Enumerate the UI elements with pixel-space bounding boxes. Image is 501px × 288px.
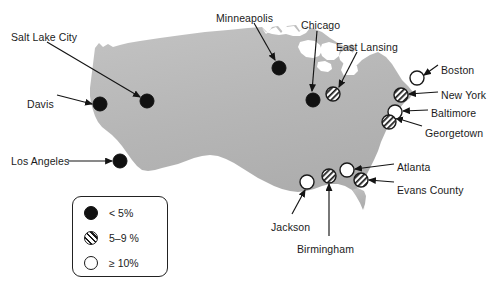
legend-row-mid: 5–9 % [73,226,167,250]
city-label-davis: Davis [27,98,54,110]
legend-symbol-open-circle [73,256,109,270]
city-marker-atlanta[interactable] [340,163,354,177]
legend-label-high: ≥ 10% [109,257,139,269]
city-marker-jackson[interactable] [300,175,314,189]
legend-label-mid: 5–9 % [109,232,139,244]
city-marker-birmingham[interactable] [322,169,336,183]
city-marker-salt-lake-city[interactable] [140,94,154,108]
city-marker-boston[interactable] [410,71,424,85]
city-marker-east-lansing[interactable] [326,87,340,101]
city-label-evans-county: Evans County [397,184,464,196]
city-marker-minneapolis[interactable] [272,61,286,75]
city-label-baltimore: Baltimore [431,107,476,119]
map-figure: Salt Lake CityDavisLos AngelesMinneapoli… [0,0,501,288]
city-label-east-lansing: East Lansing [336,41,398,53]
legend-row-low: < 5% [73,201,167,225]
prevalence-legend: < 5% 5–9 % ≥ 10% [72,196,168,277]
leader-line-boston [424,65,438,75]
legend-label-low: < 5% [109,207,133,219]
leader-line-new-york [409,92,438,94]
city-label-boston: Boston [441,64,474,76]
legend-row-high: ≥ 10% [73,251,167,275]
city-label-georgetown: Georgetown [425,127,483,139]
leader-line-jackson [292,190,305,214]
city-label-birmingham: Birmingham [297,243,354,255]
city-label-salt-lake-city: Salt Lake City [11,31,77,43]
legend-symbol-hatched-circle [73,231,109,245]
city-label-los-angeles: Los Angeles [11,155,69,167]
leader-line-baltimore [403,110,428,111]
legend-symbol-solid-circle [73,206,109,220]
leader-line-evans-county [369,180,394,182]
city-label-minneapolis: Minneapolis [216,12,273,24]
city-label-jackson: Jackson [271,221,310,233]
city-label-atlanta: Atlanta [397,161,430,173]
city-marker-evans-county[interactable] [354,173,368,187]
city-marker-chicago[interactable] [306,93,320,107]
city-marker-new-york[interactable] [394,88,408,102]
leader-line-georgetown [396,118,422,126]
leader-line-davis [57,95,92,104]
city-label-chicago: Chicago [301,19,340,31]
city-label-new-york: New York [441,89,486,101]
city-marker-georgetown[interactable] [382,115,396,129]
city-marker-los-angeles[interactable] [113,154,127,168]
city-marker-davis[interactable] [93,97,107,111]
